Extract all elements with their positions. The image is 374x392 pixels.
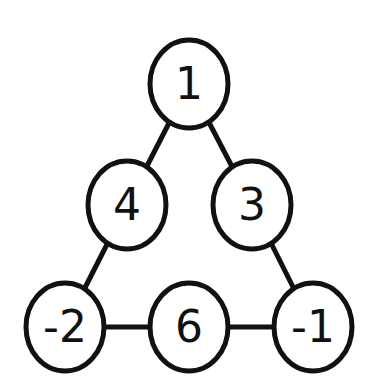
number-triangle-diagram: 1 4 3 -2 6 -1 [0,0,374,392]
node-top: 1 [150,40,228,128]
node-label: 3 [238,179,266,230]
node-label: 6 [175,301,203,352]
node-label: 1 [175,58,203,109]
node-label: 4 [113,179,141,230]
node-label: -1 [291,301,335,352]
node-mid-left: 4 [88,161,166,249]
node-bottom-left: -2 [26,283,104,371]
node-mid-right: 3 [213,161,291,249]
node-bottom-mid: 6 [150,283,228,371]
node-label: -2 [43,301,87,352]
node-bottom-right: -1 [274,283,352,371]
